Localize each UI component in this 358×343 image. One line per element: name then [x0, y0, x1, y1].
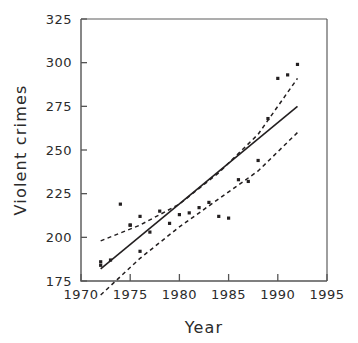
data-point — [247, 180, 250, 183]
x-axis-title: Year — [184, 318, 224, 337]
data-point — [217, 215, 220, 218]
data-point — [138, 250, 141, 253]
data-point — [237, 178, 240, 181]
data-point — [188, 211, 191, 214]
x-tick-label-1980: 1980 — [162, 287, 197, 302]
upper-confidence-band — [101, 78, 298, 240]
x-tick-label-1995: 1995 — [309, 287, 344, 302]
data-point — [207, 201, 210, 204]
y-tick-label-300: 300 — [46, 55, 72, 70]
data-point — [138, 215, 141, 218]
data-point — [227, 217, 230, 220]
data-point — [99, 260, 102, 263]
y-tick-label-250: 250 — [46, 143, 72, 158]
data-point — [257, 159, 260, 162]
y-tick-label-225: 225 — [46, 186, 72, 201]
data-point — [129, 224, 132, 227]
data-point — [168, 222, 171, 225]
data-point — [148, 230, 151, 233]
data-point — [178, 213, 181, 216]
x-tick-label-1990: 1990 — [260, 287, 295, 302]
lower-confidence-band — [101, 133, 298, 295]
x-tick-label-1985: 1985 — [211, 287, 246, 302]
y-axis-title: Violent crimes — [11, 84, 30, 215]
violent-crimes-scatter-chart: 1752002252502753003251970197519801985199… — [0, 0, 358, 343]
data-point — [286, 73, 289, 76]
scatter-points — [99, 63, 299, 267]
chart-canvas: 1752002252502753003251970197519801985199… — [0, 0, 358, 343]
y-tick-label-200: 200 — [46, 230, 72, 245]
data-point — [197, 206, 200, 209]
data-point — [296, 63, 299, 66]
data-point — [276, 77, 279, 80]
data-point — [158, 210, 161, 213]
data-point — [119, 203, 122, 206]
data-point — [99, 264, 102, 267]
x-tick-label-1975: 1975 — [113, 287, 148, 302]
y-tick-label-325: 325 — [46, 12, 72, 27]
x-tick-label-1970: 1970 — [63, 287, 98, 302]
y-tick-label-275: 275 — [46, 99, 72, 114]
axis-spines — [81, 19, 327, 281]
